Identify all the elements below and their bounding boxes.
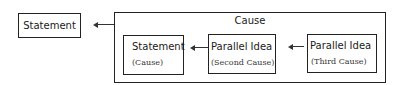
arrow-cause-to-statement [97,24,114,25]
statement-box: Statement [18,13,81,38]
cause-statement-box: Statement (Cause) [123,35,184,75]
cause-statement-label: Statement [132,41,185,52]
second-cause-sublabel: (Second Cause) [211,58,274,67]
third-cause-label: Parallel Idea [310,40,371,51]
cause-group-title: Cause [115,15,385,26]
statement-label: Statement [19,20,80,31]
second-cause-box: Parallel Idea (Second Cause) [208,34,276,74]
third-cause-box: Parallel Idea (Third Cause) [307,34,377,73]
third-cause-sublabel: (Third Cause) [311,57,367,66]
arrow-third-to-second [292,46,304,47]
second-cause-label: Parallel Idea [211,41,272,52]
cause-statement-sublabel: (Cause) [132,58,163,67]
arrow-second-to-cause [194,47,208,48]
